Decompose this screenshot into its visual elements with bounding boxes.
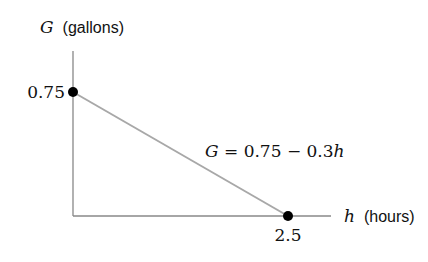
tick-label-y-intercept: 0.75 [27,82,65,102]
y-axis-unit: (gallons) [63,19,124,36]
x-axis-label: h (hours) [344,206,415,226]
chart: 0.75 2.5 G (gallons) h (hours) G = 0.75 … [0,0,428,262]
data-point-x-intercept [283,211,293,221]
equation-body: = 0.75 − 0.3 [219,141,334,161]
y-axis-variable: G [40,17,54,37]
equation-lhs: G [205,141,219,161]
tick-label-x-intercept: 2.5 [274,225,301,245]
equation-var: h [334,141,345,161]
data-point-y-intercept [68,87,78,97]
x-axis-unit: (hours) [364,208,415,225]
equation-annotation: G = 0.75 − 0.3h [205,141,345,161]
x-axis-variable: h [344,206,355,226]
y-axis-label: G (gallons) [40,17,124,37]
